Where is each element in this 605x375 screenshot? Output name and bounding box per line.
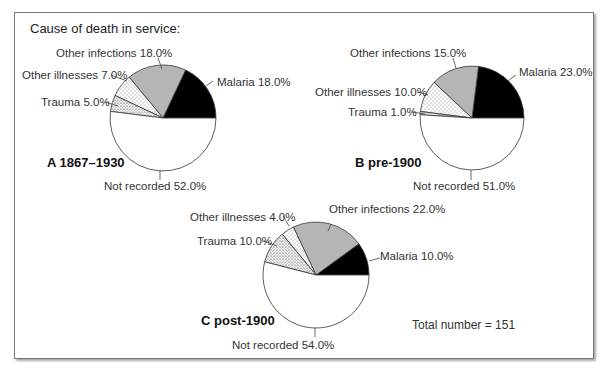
- label-b-trauma: Trauma 1.0%: [348, 106, 417, 118]
- label-a-not-recorded: Not recorded 52.0%: [104, 180, 206, 192]
- label-a-other-illnesses: Other illnesses 7.0%: [22, 69, 127, 81]
- label-b-not-recorded: Not recorded 51.0%: [413, 180, 515, 192]
- slice-malaria: [472, 66, 524, 118]
- pie-chart-c: [263, 222, 369, 328]
- label-c-trauma: Trauma 10.0%: [197, 235, 272, 247]
- label-a-malaria: Malaria 18.0%: [217, 76, 291, 88]
- slice-not-recorded: [420, 115, 524, 170]
- label-b-malaria: Malaria 23.0%: [519, 66, 593, 78]
- label-c-not-recorded: Not recorded 54.0%: [232, 339, 334, 351]
- label-b-other-illnesses: Other illnesses 10.0%: [315, 86, 427, 98]
- label-c-other-illnesses: Other illnesses 4.0%: [190, 211, 295, 223]
- total-number-label: Total number = 151: [412, 318, 515, 332]
- chart-title: Cause of death in service:: [30, 21, 180, 36]
- panel-label-c: C post-1900: [201, 313, 275, 328]
- label-b-other-infections: Other infections 15.0%: [350, 47, 466, 59]
- panel-label-b: B pre-1900: [355, 155, 421, 170]
- label-a-trauma: Trauma 5.0%: [41, 96, 110, 108]
- label-c-other-infections: Other infections 22.0%: [329, 203, 445, 215]
- label-a-other-infections: Other infections 18.0%: [56, 47, 172, 59]
- panel-label-a: A 1867–1930: [47, 155, 125, 170]
- pie-chart-b: [420, 66, 524, 170]
- slice-not-recorded: [110, 111, 216, 171]
- label-c-malaria: Malaria 10.0%: [380, 250, 454, 262]
